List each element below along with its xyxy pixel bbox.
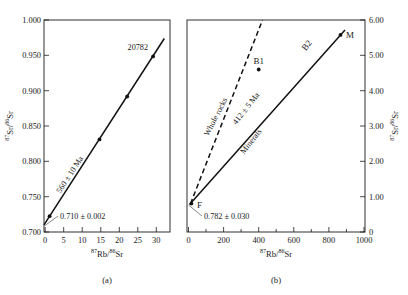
- panel-b-y-axis-title: 87Sr/86Sr: [389, 111, 400, 141]
- panel-a-y-tick-labels: 1.000 0.950 0.900 0.850 0.800 0.750 0.70…: [22, 16, 41, 237]
- panel-a: 1.000 0.950 0.900 0.850 0.800 0.750 0.70…: [4, 16, 170, 285]
- y-tick-label: 1.000: [22, 16, 41, 25]
- panel-a-x-tick-labels: 0 5 10 15 20 25 30: [43, 236, 160, 245]
- x-tick-label: 5: [62, 236, 66, 245]
- data-point: [151, 55, 155, 59]
- y-axis-title-main: Sr/: [5, 124, 15, 135]
- panel-b-point-label-m: M: [346, 30, 354, 40]
- panel-b-caption: (b): [271, 275, 281, 285]
- y-tick-label: 1.00: [369, 193, 384, 202]
- x-tick-label: 25: [134, 236, 142, 245]
- x-tick-label: 30: [152, 236, 160, 245]
- x-axis-title-main: Rb/: [97, 249, 110, 259]
- panel-b-wholerock-line: [191, 20, 263, 204]
- figure-canvas: 1.000 0.950 0.900 0.850 0.800 0.750 0.70…: [0, 0, 408, 295]
- y-axis-title-tail: Sr: [5, 111, 15, 119]
- panel-b-point-label-b1: B1: [253, 56, 264, 66]
- x-axis-title-tail: Sr: [284, 249, 292, 259]
- x-tick-label: 800: [323, 236, 336, 245]
- data-point: [98, 138, 102, 142]
- x-tick-label: 1000: [356, 236, 373, 245]
- panel-b-point-label-f: F: [197, 200, 202, 210]
- x-axis-title-tail: Sr: [115, 249, 123, 259]
- y-tick-label: 0.850: [22, 122, 41, 131]
- x-tick-label: 200: [217, 236, 230, 245]
- x-tick-label: 10: [78, 236, 86, 245]
- y-tick-label: 0.700: [22, 228, 41, 237]
- x-tick-label: 400: [252, 236, 265, 245]
- panel-b-y-ticks: [360, 20, 365, 232]
- panel-b-intercept-label: 0.782 ± 0.030: [204, 212, 249, 221]
- x-tick-label: 0: [43, 236, 47, 245]
- data-point-f: [190, 202, 194, 206]
- data-point: [48, 214, 52, 218]
- x-axis-title-main: Rb/: [266, 249, 279, 259]
- panel-b-y-tick-labels: 6.00 5.00 4.00 3.00 2.00 1.00 0: [369, 16, 384, 237]
- y-tick-label: 5.00: [369, 51, 384, 60]
- data-point-m: [339, 33, 343, 37]
- y-axis-title-main: Sr/: [390, 124, 400, 135]
- x-tick-label: 0: [186, 236, 190, 245]
- panel-b-age-label: 412 ± 5 Ma: [231, 90, 262, 126]
- panel-b-minerals-label: Minerals: [239, 127, 264, 155]
- y-tick-label: 6.00: [369, 16, 384, 25]
- panel-a-y-axis-title: 87Sr/86Sr: [4, 111, 15, 141]
- panel-a-x-axis-title: 87Rb/86Sr: [91, 248, 123, 259]
- panel-b-x-tick-labels: 0 200 400 600 800 1000: [186, 236, 372, 245]
- y-axis-title-tail: Sr: [390, 111, 400, 119]
- panel-b: 6.00 5.00 4.00 3.00 2.00 1.00 0 0: [186, 16, 400, 285]
- y-tick-label: 0.950: [22, 51, 41, 60]
- panel-a-y-ticks: [44, 20, 49, 232]
- panel-a-x-ticks: [45, 227, 156, 232]
- panel-a-isochron-line: [44, 39, 164, 225]
- y-tick-label: 2.00: [369, 157, 384, 166]
- panel-b-point-label-b2: B2: [299, 38, 313, 52]
- y-tick-label: 0.750: [22, 193, 41, 202]
- y-tick-label: 3.00: [369, 122, 384, 131]
- x-tick-label: 15: [97, 236, 105, 245]
- panel-b-x-axis-title: 87Rb/86Sr: [260, 248, 292, 259]
- x-tick-label: 600: [288, 236, 301, 245]
- panel-a-sample-label: 20782: [128, 43, 148, 52]
- data-point-b1: [257, 68, 261, 72]
- panel-a-age-label: 560 ± 10 Ma: [55, 154, 86, 194]
- data-point: [125, 95, 129, 99]
- isochron-figure: 1.000 0.950 0.900 0.850 0.800 0.750 0.70…: [0, 0, 408, 295]
- y-tick-label: 4.00: [369, 87, 384, 96]
- y-tick-label: 0.900: [22, 87, 41, 96]
- panel-a-intercept-label: 0.710 ± 0.002: [60, 212, 105, 221]
- x-tick-label: 20: [115, 236, 123, 245]
- panel-a-caption: (a): [102, 275, 112, 285]
- y-tick-label: 0.800: [22, 157, 41, 166]
